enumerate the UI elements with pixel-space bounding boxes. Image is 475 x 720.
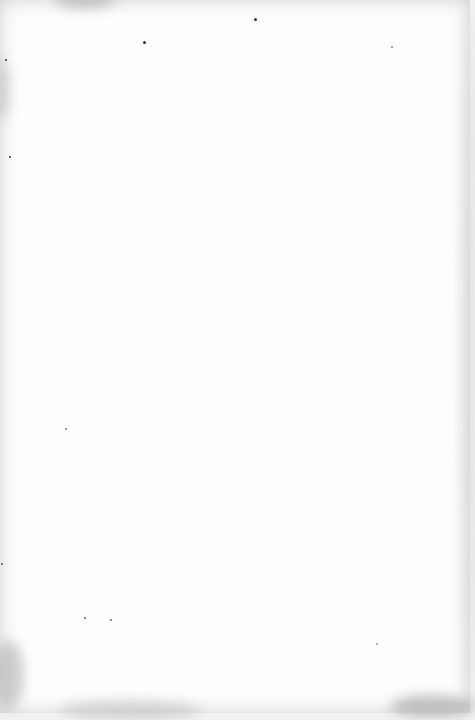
scan-speck (376, 643, 378, 645)
scan-stain-left (0, 60, 10, 120)
scan-speck (254, 18, 257, 21)
scan-speck (65, 428, 67, 430)
scan-speck (391, 46, 393, 48)
scan-stain-top (55, 0, 115, 8)
scan-speck (143, 41, 146, 44)
scan-stain-bottom-left (0, 640, 24, 710)
scan-speck (110, 619, 112, 621)
scan-stain-right (462, 0, 474, 713)
scan-speck (1, 563, 3, 565)
scan-speck (9, 156, 11, 158)
scan-stain-bottom (60, 700, 200, 720)
scan-speck (84, 617, 86, 619)
scan-stain-bottom-right (390, 695, 475, 717)
scan-speck (5, 59, 7, 61)
